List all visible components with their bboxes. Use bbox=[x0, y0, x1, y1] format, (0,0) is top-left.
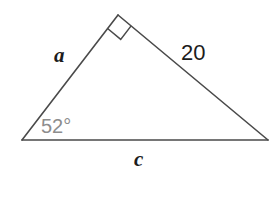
angle-measure-label: 52° bbox=[41, 116, 71, 136]
triangle-svg bbox=[0, 0, 275, 203]
side-a-label: a bbox=[54, 45, 65, 66]
triangle-figure: a 20 c 52° bbox=[0, 0, 275, 203]
side-b-length-label: 20 bbox=[181, 42, 205, 64]
right-angle-square-icon bbox=[108, 26, 132, 40]
side-c-label: c bbox=[134, 149, 143, 170]
side-b-line bbox=[118, 15, 268, 140]
